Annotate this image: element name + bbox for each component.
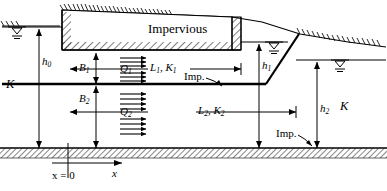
q1-subscript: 1	[128, 67, 132, 76]
h0-subscript: 0	[48, 60, 52, 69]
water-table-symbol-mid-icon	[265, 42, 283, 54]
q1-symbol: Q	[120, 62, 128, 74]
h1-symbol: h	[262, 59, 268, 71]
q2-subscript: 2	[128, 110, 132, 119]
h0-label: h0	[42, 56, 51, 67]
h2-subscript: 2	[326, 107, 330, 116]
imp-lower-label: Imp.	[276, 128, 296, 139]
b1-subscript: 1	[86, 66, 90, 75]
water-table-symbol-left-icon	[8, 27, 26, 39]
impervious-label: Impervious	[148, 22, 207, 35]
b1-label: B1	[79, 62, 89, 73]
l2-k2-label: L2, K2	[198, 105, 224, 116]
q1-label: Q1	[120, 63, 132, 74]
b2-dimension	[93, 86, 99, 148]
h0-symbol: h	[42, 55, 48, 67]
k-left-label: K	[6, 78, 14, 91]
seepage-diagram: Impervious K K h0 h1 h2 B1 B2 Q1 Q2 L1, …	[0, 0, 387, 191]
l1-k1-label: L1, K1	[150, 62, 176, 73]
h2-label: h2	[320, 103, 329, 114]
h1-subscript: 1	[268, 64, 272, 73]
water-table-symbol-right-icon	[331, 60, 349, 72]
b2-label: B2	[79, 93, 89, 104]
q2-symbol: Q	[120, 105, 128, 117]
x-axis-label: x	[112, 168, 117, 179]
h1-label: h1	[262, 60, 271, 71]
b2-subscript: 2	[86, 97, 90, 106]
l2-subscript: 2	[204, 109, 208, 118]
h0-dimension	[36, 29, 42, 148]
k2-subscript: 2	[221, 109, 225, 118]
q2-label: Q2	[120, 106, 132, 117]
k1-symbol: K	[165, 61, 172, 73]
origin-label: x = 0	[52, 170, 75, 181]
b2-symbol: B	[79, 92, 86, 104]
h2-symbol: h	[320, 102, 326, 114]
k-right-label: K	[340, 100, 348, 113]
lower-impervious-base	[0, 148, 387, 158]
k2-symbol: K	[213, 104, 220, 116]
k1-subscript: 1	[173, 66, 177, 75]
imp-upper-label: Imp.	[184, 71, 204, 82]
l1-subscript: 1	[156, 66, 160, 75]
b1-symbol: B	[79, 61, 86, 73]
